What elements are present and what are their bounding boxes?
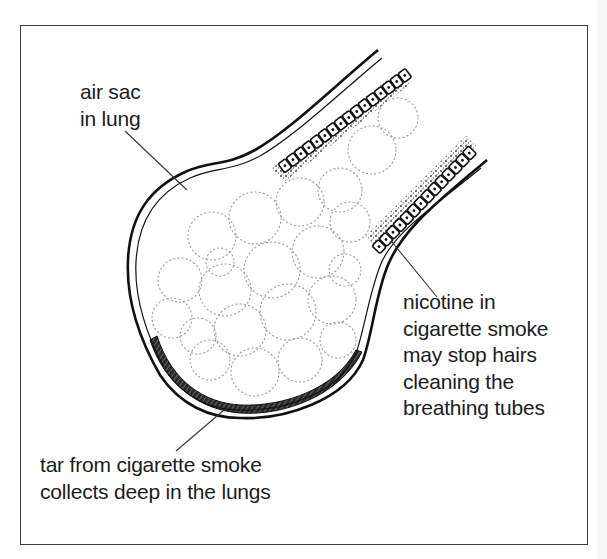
label-nicotine-line-4: cleaning the [403,369,548,396]
label-air-sac: air sac in lung [80,79,140,132]
label-air-sac-line-2: in lung [80,106,140,133]
label-nicotine: nicotine in cigarette smoke may stop hai… [403,289,548,422]
label-nicotine-line-3: may stop hairs [403,342,548,369]
label-nicotine-line-2: cigarette smoke [403,316,548,343]
label-nicotine-line-1: nicotine in [403,289,548,316]
label-air-sac-line-1: air sac [80,79,140,106]
label-nicotine-line-5: breathing tubes [403,395,548,422]
label-tar: tar from cigarette smoke collects deep i… [40,452,271,505]
label-tar-line-2: collects deep in the lungs [40,479,271,506]
leader-line-air-sac [125,131,187,190]
leader-line-tar [176,410,224,451]
label-tar-line-1: tar from cigarette smoke [40,452,271,479]
upper-epithelium-cells [272,68,412,182]
lower-epithelium-cells [366,136,476,254]
